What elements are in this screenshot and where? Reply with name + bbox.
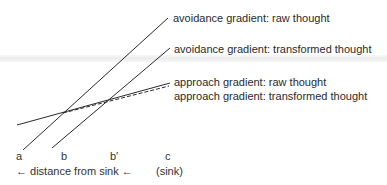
point-a: a [16, 150, 22, 162]
sink-label: (sink) [156, 165, 183, 177]
approach-raw-line [17, 83, 170, 125]
avoidance-transformed-line [52, 48, 170, 148]
point-c: c [165, 150, 171, 162]
label-avoidance-transformed: avoidance gradient: transformed thought [174, 43, 372, 55]
label-approach-transformed: approach gradient: transformed thought [174, 90, 367, 102]
point-b: b [61, 150, 67, 162]
point-b-prime: b′ [110, 150, 118, 162]
distance-axis-label: ← distance from sink ← [16, 165, 133, 177]
avoidance-raw-line [23, 18, 168, 150]
label-approach-raw: approach gradient: raw thought [174, 76, 326, 88]
label-avoidance-raw: avoidance gradient: raw thought [173, 12, 330, 24]
